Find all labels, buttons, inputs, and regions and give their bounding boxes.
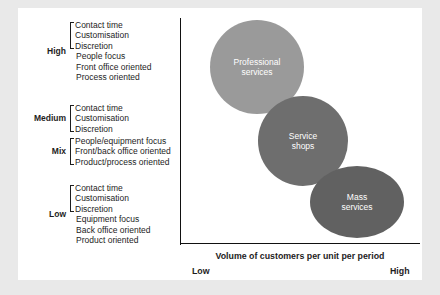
bubble-mass-services: Mass services: [310, 166, 404, 238]
attribute-line: Contact time: [74, 103, 129, 113]
attribute-line: Front/back office oriented: [74, 146, 171, 156]
bracketed-block-medium: Contact time Customisation Discretion: [70, 103, 129, 134]
attribute-line: Equipment focus: [75, 214, 151, 224]
attribute-line: Front office oriented: [75, 62, 151, 72]
attribute-group-mix: Mix People/equipment focus Front/back of…: [18, 136, 171, 167]
plain-lines-high: People focus Front office oriented Proce…: [70, 51, 151, 82]
attribute-line: Customisation: [74, 193, 129, 203]
group-body-medium: Contact time Customisation Discretion: [70, 103, 129, 134]
attribute-line: Discretion: [74, 204, 129, 214]
group-label-medium: Medium: [18, 113, 70, 123]
attribute-group-medium: Medium Contact time Customisation Discre…: [18, 103, 129, 134]
attribute-line: Contact time: [74, 20, 129, 30]
bubble-label-line: Professional: [234, 57, 281, 68]
attribute-line: Process oriented: [75, 72, 151, 82]
bracketed-block-low: Contact time Customisation Discretion: [70, 183, 151, 214]
bracketed-lines-medium: Contact time Customisation Discretion: [74, 103, 129, 134]
group-label-mix: Mix: [18, 146, 70, 156]
bubble-label-mass-services: Mass services: [341, 192, 372, 213]
attribute-line: Discretion: [74, 41, 129, 51]
x-axis-low-label: Low: [192, 266, 210, 276]
bubble-label-professional-services: Professional services: [234, 57, 281, 78]
group-body-mix: People/equipment focus Front/back office…: [70, 136, 171, 167]
horizontal-axis-line: [180, 243, 420, 244]
attribute-line: People/equipment focus: [74, 136, 171, 146]
bracketed-lines-high: Contact time Customisation Discretion: [74, 20, 129, 51]
attribute-group-low: Low Contact time Customisation Discretio…: [18, 183, 151, 245]
attribute-line: Product/process oriented: [74, 157, 171, 167]
bracketed-lines-low: Contact time Customisation Discretion: [74, 183, 129, 214]
attribute-line: Customisation: [74, 30, 129, 40]
x-axis-high-label: High: [390, 266, 410, 276]
bubble-label-line: shops: [289, 141, 317, 152]
bubble-label-line: services: [234, 67, 281, 78]
diagram-page: High Contact time Customisation Discreti…: [0, 0, 440, 295]
bubble-label-line: Mass: [341, 192, 372, 203]
attribute-line: Back office oriented: [75, 225, 151, 235]
diagram-canvas: High Contact time Customisation Discreti…: [18, 8, 422, 280]
bracketed-block-mix: People/equipment focus Front/back office…: [70, 136, 171, 167]
bubble-label-line: services: [341, 202, 372, 213]
attribute-line: Discretion: [74, 124, 129, 134]
plain-lines-low: Equipment focus Back office oriented Pro…: [70, 214, 151, 245]
group-label-low: Low: [18, 209, 70, 219]
attribute-group-high: High Contact time Customisation Discreti…: [18, 20, 151, 82]
attribute-line: People focus: [75, 51, 151, 61]
vertical-axis-line: [180, 18, 181, 245]
bubble-label-service-shops: Service shops: [289, 131, 317, 152]
group-body-high: Contact time Customisation Discretion Pe…: [70, 20, 151, 82]
bracketed-lines-mix: People/equipment focus Front/back office…: [74, 136, 171, 167]
bracketed-block-high: Contact time Customisation Discretion: [70, 20, 151, 51]
attribute-line: Contact time: [74, 183, 129, 193]
bubble-label-line: Service: [289, 131, 317, 142]
x-axis-title: Volume of customers per unit per period: [180, 251, 420, 261]
group-label-high: High: [18, 46, 70, 56]
group-body-low: Contact time Customisation Discretion Eq…: [70, 183, 151, 245]
attribute-line: Product oriented: [75, 235, 151, 245]
attribute-line: Customisation: [74, 113, 129, 123]
